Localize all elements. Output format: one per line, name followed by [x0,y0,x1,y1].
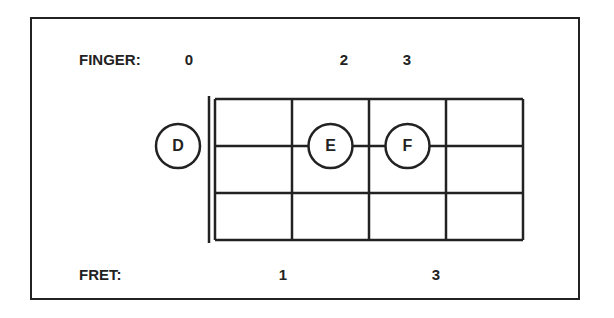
fretboard: DEF [0,0,614,318]
note-label: D [172,137,184,154]
note-label: F [403,137,413,154]
note-label: E [325,137,336,154]
